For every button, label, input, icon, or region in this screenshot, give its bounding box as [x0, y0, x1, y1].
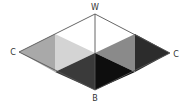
label-right: C	[173, 50, 179, 59]
label-left: C	[10, 48, 16, 57]
left-outer-region	[19, 34, 55, 72]
color-rhombus-diagram: W B C C	[0, 0, 181, 104]
right-outer-region	[135, 34, 170, 72]
label-top: W	[91, 3, 99, 12]
label-bottom: B	[92, 94, 98, 103]
